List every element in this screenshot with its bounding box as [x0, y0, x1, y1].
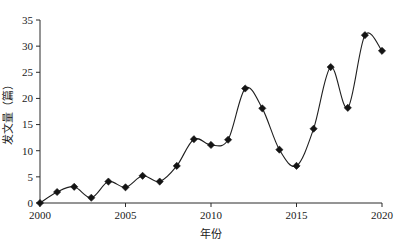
data-point-marker: [71, 183, 78, 190]
x-axis-title: 年份: [200, 227, 222, 241]
data-point-marker: [344, 104, 351, 111]
data-point-marker: [276, 146, 283, 153]
data-point-marker: [36, 199, 43, 206]
data-point-marker: [156, 178, 163, 185]
data-series-line: [40, 33, 382, 203]
y-tick-label: 0: [28, 197, 34, 209]
y-axis-title: 发文量（篇）: [1, 79, 15, 145]
axis-lines: [40, 20, 382, 203]
chart-canvas: 0510152025303520002005201020152020年份发文量（…: [0, 0, 403, 249]
data-point-marker: [378, 47, 385, 54]
y-tick-label: 25: [22, 66, 34, 78]
data-point-marker: [259, 105, 266, 112]
data-point-marker: [105, 178, 112, 185]
x-tick-label: 2020: [371, 209, 394, 221]
data-point-marker: [122, 184, 129, 191]
y-tick-label: 20: [22, 92, 34, 104]
x-tick-label: 2000: [29, 209, 52, 221]
y-tick-label: 10: [22, 145, 34, 157]
y-tick-label: 15: [22, 118, 34, 130]
data-point-marker: [139, 172, 146, 179]
y-tick-label: 5: [28, 171, 34, 183]
data-point-marker: [207, 141, 214, 148]
y-tick-label: 35: [22, 14, 34, 26]
data-point-marker: [310, 125, 317, 132]
x-tick-label: 2005: [115, 209, 138, 221]
data-point-marker: [54, 188, 61, 195]
x-tick-label: 2010: [200, 209, 223, 221]
x-tick-label: 2015: [286, 209, 309, 221]
line-chart: 0510152025303520002005201020152020年份发文量（…: [0, 0, 403, 249]
data-point-marker: [88, 194, 95, 201]
y-tick-label: 30: [22, 40, 34, 52]
data-point-marker: [242, 85, 249, 92]
